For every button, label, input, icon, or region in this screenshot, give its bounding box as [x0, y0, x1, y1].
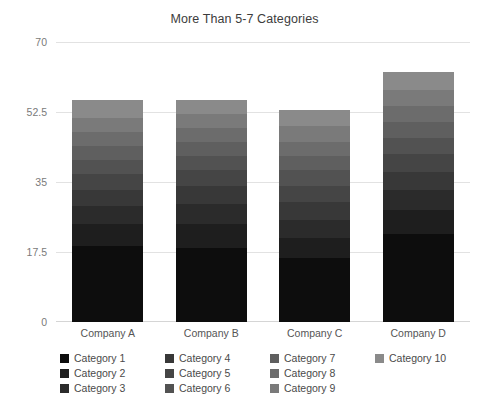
- legend-item[interactable]: Category 3: [60, 382, 165, 394]
- legend-item[interactable]: Category 4: [165, 352, 270, 364]
- bar-segment[interactable]: [176, 170, 247, 186]
- bar-segment[interactable]: [383, 210, 454, 234]
- legend-item[interactable]: Category 2: [60, 367, 165, 379]
- legend-swatch-icon: [165, 369, 174, 378]
- bar-segment[interactable]: [279, 258, 350, 322]
- legend-label: Category 9: [284, 382, 335, 394]
- legend-item[interactable]: Category 6: [165, 382, 270, 394]
- bar-segment[interactable]: [279, 156, 350, 170]
- bar-segment[interactable]: [176, 142, 247, 156]
- y-axis-tick-label: 35: [7, 176, 47, 188]
- y-axis-tick-label: 17.5: [7, 246, 47, 258]
- bar-segment[interactable]: [72, 100, 143, 118]
- bar-segment[interactable]: [72, 190, 143, 206]
- bar-segment[interactable]: [176, 204, 247, 224]
- bar-segment[interactable]: [279, 220, 350, 238]
- bar-stack[interactable]: [176, 100, 247, 322]
- bar-segment[interactable]: [279, 126, 350, 142]
- bar-segment[interactable]: [383, 90, 454, 106]
- bar-segment[interactable]: [72, 246, 143, 322]
- legend-swatch-icon: [270, 369, 279, 378]
- bar-segment[interactable]: [383, 72, 454, 90]
- bar-segment[interactable]: [383, 106, 454, 122]
- bar-segment[interactable]: [279, 170, 350, 186]
- bar-segment[interactable]: [279, 142, 350, 156]
- bar-segment[interactable]: [176, 186, 247, 204]
- legend-label: Category 2: [74, 367, 125, 379]
- legend-item[interactable]: Category 7: [270, 352, 375, 364]
- legend-label: Category 10: [389, 352, 446, 364]
- bar-segment[interactable]: [72, 224, 143, 246]
- gridline: [56, 42, 470, 43]
- x-axis-tick-label: Company D: [363, 327, 473, 339]
- bar-segment[interactable]: [72, 118, 143, 132]
- bar-segment[interactable]: [176, 100, 247, 114]
- legend-item[interactable]: Category 9: [270, 382, 375, 394]
- legend-spacer: [375, 367, 480, 379]
- chart-title: More Than 5-7 Categories: [0, 12, 489, 26]
- bar-stack[interactable]: [72, 100, 143, 322]
- legend-label: Category 7: [284, 352, 335, 364]
- bar-segment[interactable]: [72, 132, 143, 146]
- bar-segment[interactable]: [383, 190, 454, 210]
- y-axis-tick-label: 70: [7, 36, 47, 48]
- bar-segment[interactable]: [72, 206, 143, 224]
- legend-swatch-icon: [60, 354, 69, 363]
- x-axis-tick-label: Company A: [53, 327, 163, 339]
- legend-item[interactable]: Category 1: [60, 352, 165, 364]
- bar-segment[interactable]: [383, 172, 454, 190]
- legend-label: Category 3: [74, 382, 125, 394]
- bar-segment[interactable]: [176, 128, 247, 142]
- legend-item[interactable]: Category 5: [165, 367, 270, 379]
- legend-item[interactable]: Category 8: [270, 367, 375, 379]
- bar-segment[interactable]: [279, 110, 350, 126]
- chart-container: More Than 5-7 Categories 017.53552.570 C…: [0, 0, 489, 417]
- chart-legend: Category 1Category 4Category 7Category 1…: [60, 352, 480, 394]
- legend-label: Category 5: [179, 367, 230, 379]
- bar-segment[interactable]: [72, 146, 143, 160]
- bar-segment[interactable]: [279, 238, 350, 258]
- x-axis-tick-label: Company B: [156, 327, 266, 339]
- bar-segment[interactable]: [176, 156, 247, 170]
- legend-label: Category 8: [284, 367, 335, 379]
- bar-segment[interactable]: [383, 138, 454, 154]
- legend-swatch-icon: [270, 354, 279, 363]
- y-axis-tick-label: 0: [7, 316, 47, 328]
- bar-segment[interactable]: [383, 234, 454, 322]
- x-axis-tick-label: Company C: [260, 327, 370, 339]
- legend-swatch-icon: [270, 384, 279, 393]
- legend-swatch-icon: [60, 369, 69, 378]
- legend-swatch-icon: [375, 354, 384, 363]
- bar-segment[interactable]: [176, 248, 247, 322]
- legend-item[interactable]: Category 10: [375, 352, 480, 364]
- legend-swatch-icon: [165, 384, 174, 393]
- legend-label: Category 4: [179, 352, 230, 364]
- bar-segment[interactable]: [176, 114, 247, 128]
- y-axis-tick-label: 52.5: [7, 106, 47, 118]
- bar-segment[interactable]: [72, 160, 143, 174]
- bar-segment[interactable]: [383, 154, 454, 172]
- bar-segment[interactable]: [383, 122, 454, 138]
- plot-area: [56, 42, 470, 322]
- bar-segment[interactable]: [176, 224, 247, 248]
- bar-stack[interactable]: [279, 110, 350, 322]
- legend-label: Category 1: [74, 352, 125, 364]
- legend-spacer: [375, 382, 480, 394]
- legend-label: Category 6: [179, 382, 230, 394]
- bar-segment[interactable]: [279, 202, 350, 220]
- bar-segment[interactable]: [72, 174, 143, 190]
- bar-stack[interactable]: [383, 72, 454, 322]
- bar-segment[interactable]: [279, 186, 350, 202]
- legend-swatch-icon: [60, 384, 69, 393]
- legend-swatch-icon: [165, 354, 174, 363]
